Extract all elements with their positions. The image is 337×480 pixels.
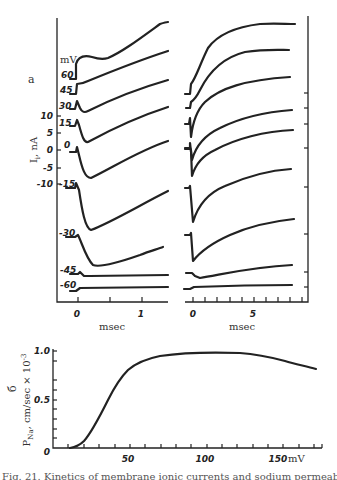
right-xlabel: msec [229,321,256,332]
panel-b: б PNa, cm/sec × 10-3 1.0 0.5 0 [6,346,322,464]
svg-text:PNa, cm/sec × 10-3: PNa, cm/sec × 10-3 [20,354,35,447]
ytick-label: 0 [44,447,50,457]
svg-text:0: 0 [64,140,70,150]
panel-a: a Ii, nA 10 5 0 -5 -10 0 1 msec [28,16,308,332]
xtick-label: 150 [269,454,288,464]
figure-caption: Fig. 21. Kinetics of membrane ionic curr… [2,470,337,480]
ytick-label: 0.5 [34,395,50,405]
xunit-label: mV [288,453,305,464]
voltage-labels: mV 60 45 30 15 0 -15 -30 -45 -60 [59,54,77,290]
xtick-label: 0 [190,309,196,319]
xtick-label: 100 [196,454,215,464]
ytick-label: -5 [43,163,53,173]
panel-a-ylabel: Ii, nA [28,136,42,163]
xtick-label: 50 [122,454,135,464]
ytick-label: 1.0 [34,346,50,356]
pna-curve [70,353,316,448]
svg-text:-60: -60 [60,280,76,290]
left-traces [66,22,168,291]
ytick-label: -10 [37,179,53,189]
ytick-label: 0 [47,145,53,155]
ylabel-sub: Na [27,429,35,439]
ylabel-unit: , cm/sec × 10 [21,360,32,429]
panel-b-letter: б [6,385,19,392]
panel-b-ylabel: PNa, cm/sec × 10-3 [20,354,35,447]
xtick-label: 5 [250,309,256,319]
ytick-label: 5 [47,128,53,138]
right-traces [184,24,295,289]
xtick-label: 0 [74,309,80,319]
panel-b-axes [53,349,322,448]
ylabel-unit: , nA [28,136,39,157]
voltage-unit: mV [60,54,77,65]
figure-canvas: a Ii, nA 10 5 0 -5 -10 0 1 msec [0,0,337,480]
panel-b-xticks: 50 100 150 mV [68,444,322,464]
left-xlabel: msec [99,321,126,332]
xtick-label: 1 [138,309,144,319]
panel-a-letter: a [28,73,35,86]
svg-text:Ii, nA: Ii, nA [28,136,42,163]
ylabel-exp: -3 [20,354,28,361]
ytick-label: 10 [40,111,53,121]
